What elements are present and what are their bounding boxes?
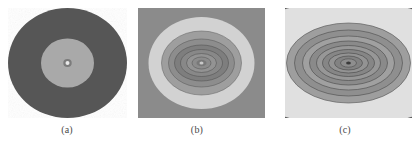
panel-b: [138, 8, 265, 118]
panel-b-caption: (b): [167, 124, 227, 135]
panel-a: [8, 8, 127, 118]
panel-c-core-dot: [346, 61, 351, 64]
panel-a-plot: [8, 8, 127, 118]
panel-a-caption: (a): [37, 124, 97, 135]
panel-b-plot: [138, 8, 265, 118]
panel-c-caption: (c): [315, 124, 375, 135]
panel-c: [285, 8, 412, 118]
figure-container: (a) (b) (c): [0, 0, 419, 144]
panel-c-plot: [285, 8, 412, 118]
panel-a-core-dot: [66, 61, 70, 65]
panel-b-core-dot: [200, 62, 204, 65]
